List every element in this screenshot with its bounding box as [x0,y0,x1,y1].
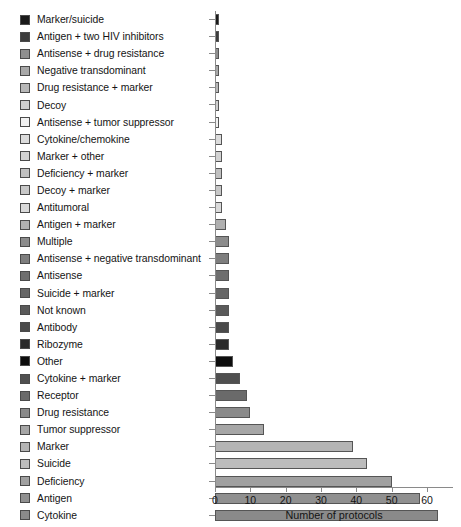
legend-swatch-icon [20,374,30,384]
bar [215,288,229,299]
legend-swatch-icon [20,49,30,59]
bar [215,458,367,469]
chart-row: Suicide [0,455,461,472]
category-label: Receptor [37,390,79,401]
legend-swatch-icon [20,391,30,401]
legend-swatch-icon [20,100,30,110]
chart-row: Marker/suicide [0,11,461,28]
category-label: Cytokine [37,510,77,521]
bar [215,390,247,401]
category-label: Marker/suicide [37,14,104,25]
bar-container [215,199,222,216]
legend-swatch-icon [20,442,30,452]
x-axis-tick [321,487,322,492]
bar-container [215,216,226,233]
legend-swatch-icon [20,288,30,298]
bar-container [215,353,233,370]
category-label: Antisense [37,270,82,281]
chart-row: Receptor [0,387,461,404]
chart-row: Decoy [0,96,461,113]
bar-container [215,148,222,165]
legend-swatch-icon [20,15,30,25]
x-axis-tick [427,487,428,492]
x-axis-tick [392,487,393,492]
bar [215,356,233,367]
chart-row: Suicide + marker [0,285,461,302]
chart-row: Ribozyme [0,336,461,353]
category-label: Antitumoral [37,202,89,213]
legend-swatch-icon [20,151,30,161]
legend-swatch-icon [20,408,30,418]
category-label: Decoy [37,100,66,111]
category-label: Deficiency + marker [37,168,128,179]
x-axis-title: Number of protocols [215,509,453,521]
chart-row: Marker [0,438,461,455]
chart-row: Multiple [0,233,461,250]
x-axis-tick-label: 20 [280,494,292,506]
bar-container [215,387,247,404]
bar [215,424,264,435]
bar [215,134,222,145]
category-label: Suicide + marker [37,288,114,299]
category-label: Multiple [37,236,72,247]
chart-row: Deficiency + marker [0,165,461,182]
category-label: Drug resistance [37,407,109,418]
legend-swatch-icon [20,254,30,264]
legend-swatch-icon [20,185,30,195]
legend-swatch-icon [20,168,30,178]
legend-swatch-icon [20,493,30,503]
category-label: Marker + other [37,151,104,162]
category-label: Antisense + drug resistance [37,48,164,59]
legend-swatch-icon [20,476,30,486]
category-label: Deficiency [37,476,84,487]
x-axis-tick [356,487,357,492]
bar [215,407,250,418]
legend-swatch-icon [20,459,30,469]
legend-swatch-icon [20,203,30,213]
category-label: Antigen + two HIV inhibitors [37,31,164,42]
category-label: Suicide [37,458,71,469]
bar-container [215,182,222,199]
bar-chart: Marker/suicideAntigen + two HIV inhibito… [0,0,461,527]
legend-swatch-icon [20,356,30,366]
bar-container [215,336,229,353]
chart-row: Decoy + marker [0,182,461,199]
x-axis-tick-label: 50 [386,494,398,506]
chart-row: Tumor suppressor [0,421,461,438]
x-axis-tick-label: 0 [212,494,218,506]
legend-swatch-icon [20,425,30,435]
bar [215,253,229,264]
bar-container [215,285,229,302]
bar [215,441,353,452]
chart-row: Cytokine/chemokine [0,131,461,148]
y-axis-line [215,11,216,488]
chart-row: Cytokine + marker [0,370,461,387]
chart-row: Antibody [0,319,461,336]
category-label: Drug resistance + marker [37,82,153,93]
x-axis-tick-label: 10 [244,494,256,506]
chart-row: Antisense + negative transdominant [0,250,461,267]
x-axis-tick-label: 60 [421,494,433,506]
bar [215,185,222,196]
bar-container [215,165,222,182]
category-label: Marker [37,441,69,452]
bar [215,476,392,487]
bar-container [215,319,229,336]
x-axis-tick [215,487,216,492]
category-label: Cytokine + marker [37,373,121,384]
legend-swatch-icon [20,220,30,230]
bar [215,339,229,350]
chart-row: Antisense [0,267,461,284]
legend-swatch-icon [20,66,30,76]
category-label: Ribozyme [37,339,83,350]
category-label: Decoy + marker [37,185,110,196]
bar [215,373,240,384]
bar [215,219,226,230]
chart-row: Negative transdominant [0,62,461,79]
category-label: Antisense + tumor suppressor [37,117,174,128]
bar-container [215,370,240,387]
x-axis-tick-label: 30 [315,494,327,506]
legend-swatch-icon [20,322,30,332]
legend-swatch-icon [20,339,30,349]
bar-container [215,131,222,148]
